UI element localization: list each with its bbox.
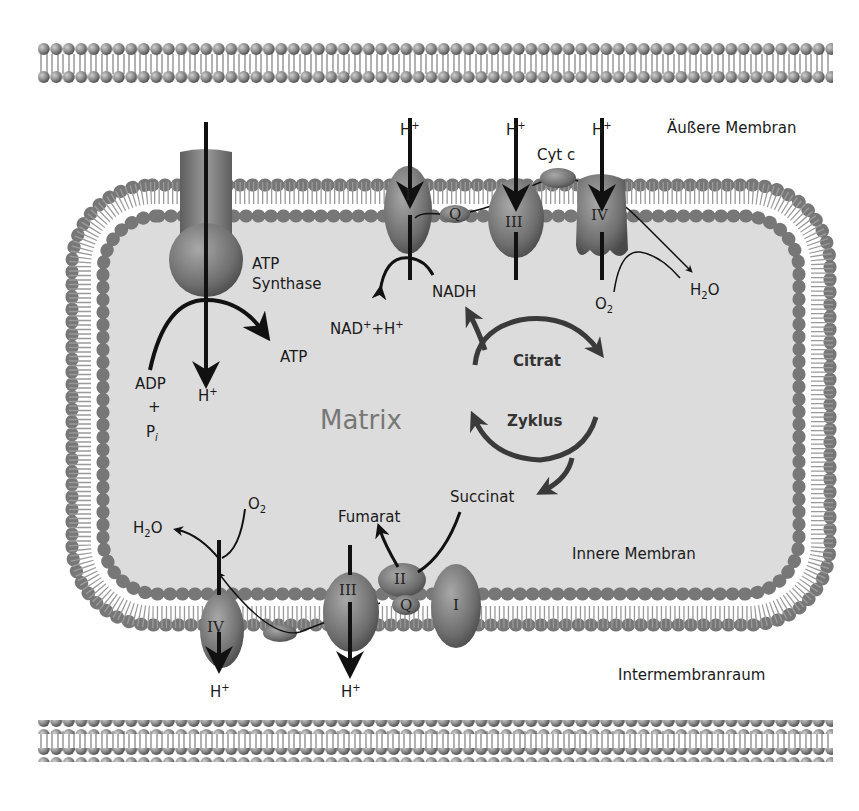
fumarat-label: Fumarat <box>338 510 400 525</box>
o2-subscript: 2 <box>607 304 613 315</box>
h-text: H <box>400 121 411 139</box>
h-superscript: + <box>395 319 403 330</box>
matrix-label: Matrix <box>320 407 402 433</box>
complex-III-top-label: III <box>505 215 523 230</box>
q-bottom-label: Q <box>400 598 412 613</box>
h-superscript: + <box>411 120 419 131</box>
o-text: O <box>708 281 720 299</box>
pi-subscript: i <box>155 432 158 443</box>
pi-label: Pi <box>146 425 158 443</box>
outer-membrane-bottom <box>38 720 833 762</box>
o-text: O <box>151 519 163 537</box>
o2-subscript: 2 <box>260 504 266 515</box>
nad-text: NAD <box>330 320 363 338</box>
atp-synthase-label-2: Synthase <box>252 277 322 292</box>
nad-plus-h-label: NAD++H+ <box>330 320 404 337</box>
h-superscript: + <box>603 120 611 131</box>
outer-membrane-top <box>38 43 833 85</box>
h2o-label-top: H2O <box>690 283 719 301</box>
zyklus-label: Zyklus <box>507 414 562 429</box>
complex-IV-top-label: IV <box>591 208 608 223</box>
h2o-label-bottom: H2O <box>133 521 162 539</box>
nadh-label: NADH <box>432 285 476 300</box>
citrat-label: Citrat <box>513 354 561 369</box>
atp-label: ATP <box>280 350 307 365</box>
complex-III-bottom-label: III <box>339 583 357 598</box>
h-text: H <box>506 121 517 139</box>
h-text: H <box>198 387 209 405</box>
pi-text: P <box>146 423 155 441</box>
h-superscript: + <box>352 682 360 693</box>
h-plus-complex-IV-bottom: H+ <box>210 683 230 700</box>
h-plus-complex-III-bottom: H+ <box>341 683 361 700</box>
h-text: H <box>690 281 701 299</box>
h-plus-complex-I-top: H+ <box>400 121 420 138</box>
adp-label: ADP <box>135 377 166 392</box>
h-text: H <box>341 683 352 701</box>
atp-synthase-label-1: ATP <box>252 257 279 272</box>
outer-membrane-label: Äußere Membran <box>667 121 796 136</box>
complex-I-top-label: I <box>405 188 411 203</box>
o2-label-bottom: O2 <box>248 497 266 515</box>
h-plus-atp-synthase: H+ <box>198 387 218 404</box>
complex-II-bottom-label: II <box>394 572 406 587</box>
h-superscript: + <box>221 682 229 693</box>
succinat-label: Succinat <box>450 490 514 505</box>
plus-h-text: +H <box>371 320 395 338</box>
o-text: O <box>595 295 607 313</box>
cyt-c-label: Cyt c <box>537 148 575 163</box>
h-plus-complex-III-top: H+ <box>506 121 526 138</box>
inner-membrane-label: Innere Membran <box>572 547 696 562</box>
cytochrome-c <box>540 168 576 188</box>
h-superscript: + <box>209 386 217 397</box>
complex-IV-bottom-label: IV <box>207 620 224 635</box>
intermembrane-space-label: Intermembranraum <box>618 668 765 683</box>
plus-label: + <box>148 400 161 415</box>
o2-label-top: O2 <box>595 297 613 315</box>
h-text: H <box>592 121 603 139</box>
h-text: H <box>133 519 144 537</box>
h-superscript: + <box>517 120 525 131</box>
o-text: O <box>248 495 260 513</box>
h-plus-complex-IV-top: H+ <box>592 121 612 138</box>
h-text: H <box>210 683 221 701</box>
complex-I-bottom-label: I <box>453 598 459 613</box>
q-top-label: Q <box>449 207 461 222</box>
